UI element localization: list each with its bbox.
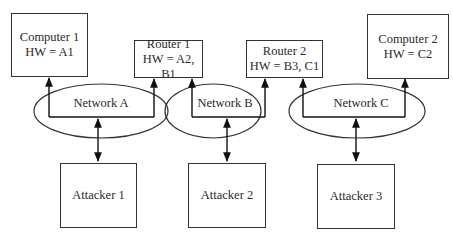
computer2-node: Computer 2 HW = C2 — [367, 14, 449, 79]
attacker3-name: Attacker 3 — [330, 189, 382, 204]
attacker1-name: Attacker 1 — [72, 188, 124, 203]
computer2-hw: HW = C2 — [384, 47, 433, 62]
computer2-name: Computer 2 — [378, 32, 437, 47]
attacker2-node: Attacker 2 — [188, 163, 266, 228]
router1-name: Router 1 — [147, 37, 190, 52]
network-b-label: Network B — [194, 96, 256, 111]
computer1-hw: HW = A1 — [25, 45, 74, 60]
attacker3-node: Attacker 3 — [317, 164, 395, 229]
attacker1-node: Attacker 1 — [60, 163, 137, 228]
network-b-ellipse — [165, 84, 261, 138]
attacker2-name: Attacker 2 — [201, 188, 253, 203]
router1-hw: HW = A2, B1 — [135, 52, 202, 82]
router2-node: Router 2 HW = B3, C1 — [246, 40, 323, 78]
network-a-label: Network A — [70, 96, 132, 111]
network-a-ellipse — [34, 84, 168, 138]
router2-hw: HW = B3, C1 — [250, 59, 319, 74]
computer1-node: Computer 1 HW = A1 — [11, 13, 88, 77]
router2-name: Router 2 — [263, 44, 306, 59]
network-c-label: Network C — [330, 96, 392, 111]
router1-node: Router 1 HW = A2, B1 — [134, 40, 203, 78]
computer1-name: Computer 1 — [20, 30, 79, 45]
